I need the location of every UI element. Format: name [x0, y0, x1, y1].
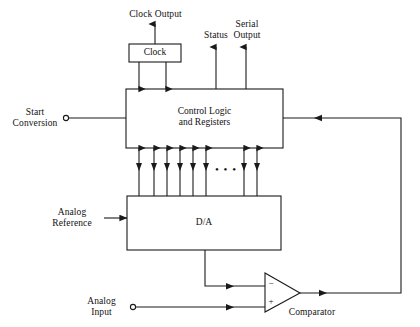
start-conversion-terminal: [63, 115, 68, 120]
adc-block-diagram: Clock Output Status Serial Output Start …: [0, 0, 420, 327]
analog-input-arrowhead: [226, 304, 234, 310]
serial-output-label: Serial Output: [224, 19, 270, 40]
dac-output-arrowhead: [226, 283, 234, 289]
comparator-label: Comparator: [277, 307, 347, 318]
analog-input-label: Analog Input: [73, 296, 130, 317]
comparator-feedback-wire: [283, 118, 401, 293]
analog-reference-label: Analog Reference: [43, 207, 101, 228]
block-label-clock: Clock: [129, 47, 181, 58]
block-label-control-logic: Control Logic and Registers: [126, 106, 283, 128]
dac-output-wire: [205, 250, 265, 286]
comparator-plus-sign: +: [266, 297, 276, 306]
start-conversion-label: Start Conversion: [6, 107, 64, 128]
block-label-dac: D/A: [127, 217, 281, 228]
feedback-arrowheads: [314, 115, 327, 296]
clock-output-label: Clock Output: [118, 9, 193, 20]
comparator-minus-sign: −: [266, 279, 276, 288]
bus-ellipsis: • • •: [209, 164, 243, 175]
analog-input-terminal: [130, 304, 135, 309]
